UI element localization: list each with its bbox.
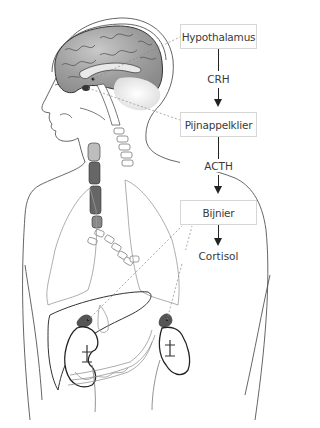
trachea	[88, 143, 102, 228]
arrow-down-icon	[214, 99, 222, 107]
kidney-left	[65, 314, 98, 412]
acth-label: ACTH	[180, 160, 257, 172]
connector-line	[218, 49, 219, 71]
brain	[55, 26, 163, 125]
spine	[114, 128, 133, 166]
connector-line	[218, 137, 219, 159]
arrow-down-icon	[214, 238, 222, 246]
arrow-down-icon	[214, 186, 222, 194]
crh-label: CRH	[180, 73, 257, 85]
hypothalamus-box: Hypothalamus	[180, 24, 257, 49]
kidney-right	[152, 314, 190, 411]
bijnier-box: Bijnier	[180, 200, 257, 225]
hypothalamus-label: Hypothalamus	[182, 31, 256, 43]
pijnappelklier-label: Pijnappelklier	[185, 119, 253, 131]
bijnier-label: Bijnier	[203, 207, 235, 219]
cortisol-label: Cortisol	[180, 250, 257, 262]
connector-line	[218, 225, 219, 239]
pijnappelklier-box: Pijnappelklier	[180, 112, 257, 137]
